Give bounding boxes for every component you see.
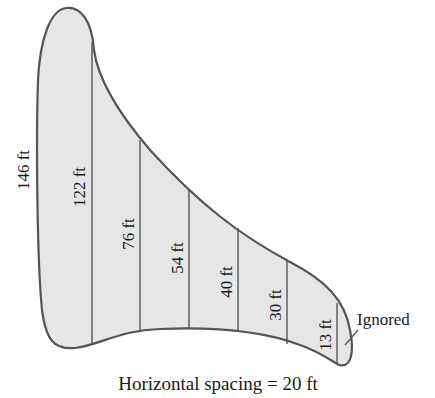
label-76: 76 ft — [119, 218, 138, 250]
region-diagram: 146 ft 122 ft 76 ft 54 ft 40 ft 30 ft 13… — [0, 0, 435, 398]
label-122: 122 ft — [70, 167, 89, 207]
label-13: 13 ft — [316, 319, 335, 351]
label-54: 54 ft — [168, 242, 187, 274]
caption: Horizontal spacing = 20 ft — [118, 373, 318, 394]
label-40: 40 ft — [217, 266, 236, 298]
ignored-label: Ignored — [357, 310, 410, 329]
label-146: 146 ft — [14, 150, 33, 190]
label-30: 30 ft — [266, 289, 285, 321]
